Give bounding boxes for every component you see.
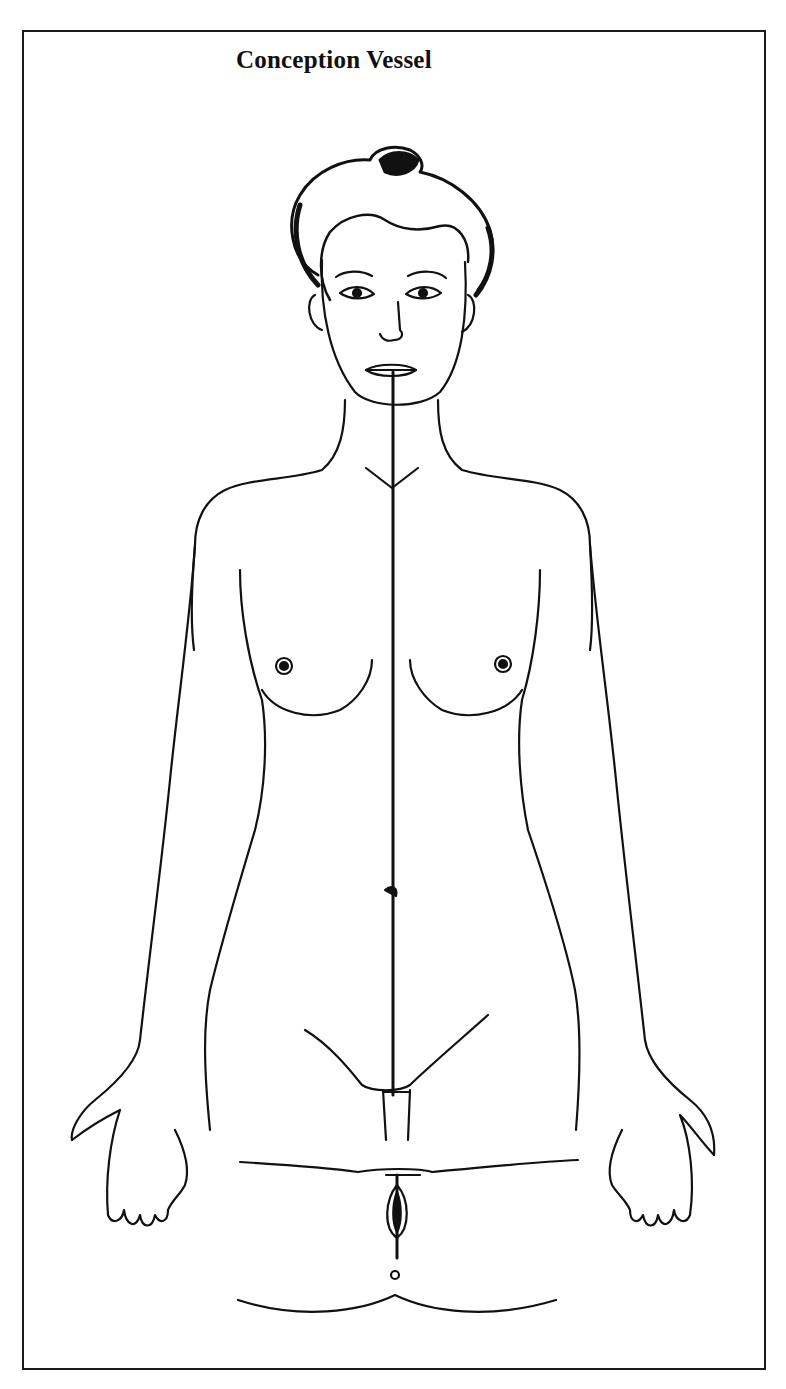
body-illustration (0, 0, 786, 1389)
